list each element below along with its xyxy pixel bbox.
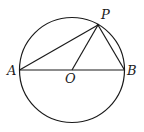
geometry-diagram: A B O P [0,0,144,132]
segment-po [72,25,98,70]
label-o: O [65,71,76,86]
segment-pb [98,25,125,70]
segment-pa [20,25,99,70]
label-a: A [6,63,16,78]
label-b: B [126,63,137,78]
label-p: P [100,7,110,22]
point-p-dot [97,24,100,27]
